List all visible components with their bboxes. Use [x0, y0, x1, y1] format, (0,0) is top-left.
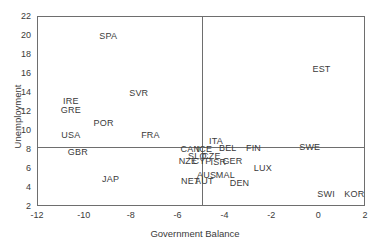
- y-axis-tick-label: 12: [5, 106, 31, 116]
- data-point-label: DEN: [230, 179, 250, 188]
- y-axis-tick-label: 14: [5, 87, 31, 97]
- x-axis-tick-label: -4: [220, 210, 228, 220]
- data-point-label: EST: [312, 65, 330, 74]
- scatter-chart: SPAESTSVRIREGREPORUSAFRAITAGBRCANICEBELF…: [0, 0, 390, 252]
- y-axis-tick-label: 10: [5, 125, 31, 135]
- y-axis-tick-label: 8: [5, 144, 31, 154]
- x-axis-tick-label: -8: [127, 210, 135, 220]
- data-point-label: KOR: [344, 189, 364, 198]
- data-point-label: LUX: [254, 164, 272, 173]
- data-point-label: AUT: [195, 177, 214, 186]
- y-axis-tick-label: 22: [5, 11, 31, 21]
- plot-area: SPAESTSVRIREGREPORUSAFRAITAGBRCANICEBELF…: [37, 16, 365, 206]
- data-point-label: FRA: [141, 130, 160, 139]
- y-axis-tick-label: 4: [5, 182, 31, 192]
- y-axis-tick-label: 16: [5, 68, 31, 78]
- data-point-label: CYP: [192, 157, 211, 166]
- data-point-label: GRE: [61, 106, 81, 115]
- x-axis-tick-label: -10: [77, 210, 90, 220]
- data-point-label: JAP: [102, 174, 119, 183]
- x-axis-tick-label: -2: [267, 210, 275, 220]
- y-axis-tick-label: 20: [5, 30, 31, 40]
- x-axis-title: Government Balance: [0, 228, 390, 239]
- y-axis-tick-label: 2: [5, 201, 31, 211]
- data-point-label: FIN: [246, 144, 261, 153]
- y-axis-title: Unemployment: [12, 62, 23, 172]
- y-axis-tick-label: 18: [5, 49, 31, 59]
- data-point-label: USA: [61, 130, 80, 139]
- data-point-label: SPA: [99, 32, 117, 41]
- data-point-label: SWE: [299, 143, 320, 152]
- x-axis-tick-label: -12: [30, 210, 43, 220]
- data-point-label: BEL: [219, 144, 237, 153]
- data-point-label: SWI: [317, 189, 335, 198]
- data-point-label: GBR: [68, 147, 88, 156]
- data-point-label: SVR: [129, 89, 148, 98]
- x-axis-tick-label: 2: [362, 210, 367, 220]
- y-axis-tick-label: 6: [5, 163, 31, 173]
- x-axis-tick-label: 0: [316, 210, 321, 220]
- data-point-label: POR: [94, 119, 114, 128]
- data-point-label: GER: [222, 157, 242, 166]
- x-axis-tick-label: -6: [174, 210, 182, 220]
